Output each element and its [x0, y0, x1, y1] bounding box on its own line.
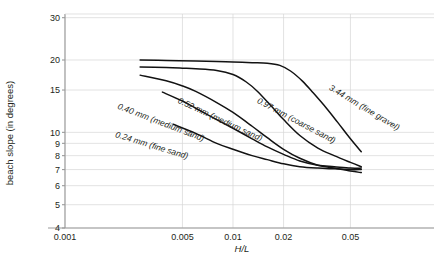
y-tick-label: 5 [55, 200, 60, 210]
axis-lines-group [48, 14, 434, 228]
x-axis-title-denominator: L [244, 243, 249, 254]
x-tick-label: 0.05 [342, 232, 360, 242]
x-tick-labels-group: 0.0010.0050.010.020.05 [54, 232, 359, 242]
y-tick-label: 20 [50, 55, 60, 65]
x-tick-label: 0.005 [171, 232, 194, 242]
x-tick-label: 0.01 [224, 232, 242, 242]
beach-slope-chart-figure: 45678910152030 0.0010.0050.010.020.05 0.… [0, 0, 445, 256]
y-tick-labels-group: 45678910152030 [50, 13, 65, 233]
y-tick-label: 6 [55, 181, 60, 191]
y-tick-label: 8 [55, 151, 60, 161]
y-axis-title: beach slope (in degrees) [4, 81, 15, 186]
x-tick-label: 0.001 [54, 232, 77, 242]
x-axis-title: H/L [235, 243, 250, 254]
y-tick-label: 7 [55, 165, 60, 175]
y-tick-label: 9 [55, 139, 60, 149]
x-tick-label: 0.02 [275, 232, 293, 242]
chart-plot-area: 45678910152030 0.0010.0050.010.020.05 0.… [0, 0, 445, 256]
y-tick-label: 30 [50, 13, 60, 23]
y-tick-label: 15 [50, 85, 60, 95]
y-tick-label: 10 [50, 128, 60, 138]
